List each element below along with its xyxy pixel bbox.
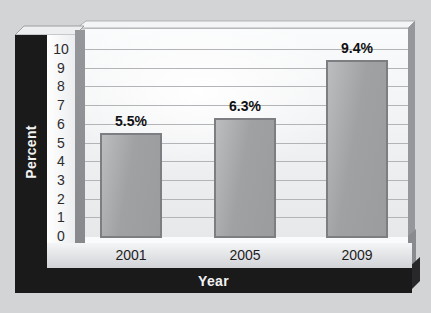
x-tick-label-2001: 2001 <box>91 247 171 263</box>
y-axis-title: Percent <box>23 125 39 178</box>
y-tick-label-8: 8 <box>47 78 75 94</box>
y-tick-label-2: 2 <box>47 191 75 207</box>
y-axis-title-band: Percent <box>15 35 47 268</box>
y-tick-label-4: 4 <box>47 153 75 169</box>
y-tick-label-1: 1 <box>47 209 75 225</box>
axis-column-cap <box>15 26 84 35</box>
y-tick-label-6: 6 <box>47 116 75 132</box>
bar-value-label-2001: 5.5% <box>86 113 176 129</box>
bar-2001 <box>100 133 162 238</box>
y-tick-label-7: 7 <box>47 97 75 113</box>
x-axis-title-band: Year <box>15 268 412 293</box>
left-side-face <box>75 30 85 244</box>
bar-chart-figure: Percent Year 0123456789105.5%20016.3%200… <box>0 0 431 313</box>
y-tick-label-9: 9 <box>47 60 75 76</box>
x-tick-label-2009: 2009 <box>317 247 397 263</box>
bar-value-label-2009: 9.4% <box>312 40 402 56</box>
bar-value-label-2005: 6.3% <box>200 98 290 114</box>
x-tick-label-2005: 2005 <box>205 247 285 263</box>
y-tick-label-5: 5 <box>47 135 75 151</box>
bar-2005 <box>214 118 276 238</box>
bar-2009 <box>326 60 388 238</box>
y-tick-label-0: 0 <box>47 228 75 244</box>
plot-top-bevel <box>77 21 415 28</box>
y-tick-label-10: 10 <box>47 41 75 57</box>
y-tick-label-3: 3 <box>47 172 75 188</box>
plot-right-bevel <box>408 21 415 238</box>
x-axis-title: Year <box>198 273 229 289</box>
